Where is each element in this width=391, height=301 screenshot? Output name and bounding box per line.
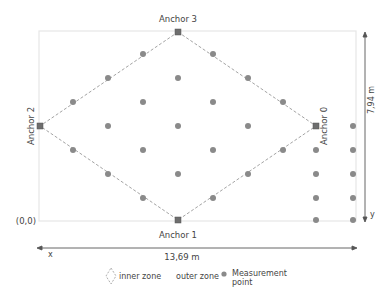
origin-label: (0,0) <box>16 216 36 226</box>
anchor-layout-diagram: Anchor 3 Anchor 1 Anchor 2 Anchor 0 (0,0… <box>0 0 391 301</box>
anchor-0-label: Anchor 0 <box>319 107 329 145</box>
x-dimension-label: 13,69 m <box>164 252 199 262</box>
y-dimension-label: 7,94 m <box>367 86 376 114</box>
measurement-point-legend-icon <box>221 271 226 276</box>
anchor-2-label: Anchor 2 <box>26 107 36 145</box>
inner-zone-legend-icon <box>106 268 116 284</box>
legend-measurement-point-line2: point <box>232 278 252 287</box>
anchor-1-label: Anchor 1 <box>159 230 197 240</box>
legend-outer-zone: outer zone <box>176 272 219 281</box>
legend-inner-zone: inner zone <box>119 272 161 281</box>
measurement-points <box>70 51 356 223</box>
y-dimension-arrow <box>363 32 367 222</box>
legend: inner zone outer zone Measurement point <box>106 268 287 287</box>
room-boundary <box>39 31 356 221</box>
anchor-3-label: Anchor 3 <box>159 14 197 24</box>
x-dimension-arrow <box>37 246 357 250</box>
y-axis-label: y <box>370 210 375 219</box>
x-axis-label: x <box>48 250 53 259</box>
anchor-2-marker <box>37 123 43 129</box>
legend-measurement-point-line1: Measurement <box>232 269 287 278</box>
anchor-1-marker <box>175 217 181 223</box>
anchor-3-marker <box>175 29 181 35</box>
